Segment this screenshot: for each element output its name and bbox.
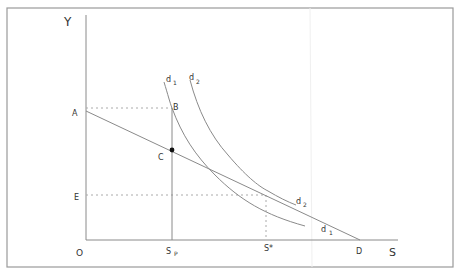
s-star-label: S* [264,244,273,253]
point-a-label: A [72,109,78,118]
curve-d2 [190,80,296,205]
point-e-label: E [74,193,79,202]
page-fold-line [310,8,312,267]
diagram-frame [7,8,453,267]
curve-d1-end-subscript: 1 [329,229,333,236]
curve-d2-label: d [189,73,194,82]
point-c-label: C [158,153,164,162]
point-b-label: B [173,103,179,112]
origin-label: O [76,248,83,258]
x-axis-label: S [389,246,396,259]
curve-d2-end-label: d [296,197,301,206]
diagram-canvas: Y S O A B C D E S P S* d 1 d 2 d 2 d 1 [0,0,458,274]
y-axis-label: Y [63,15,72,29]
curve-d1-end-label: d [321,225,326,234]
sp-subscript: P [174,250,178,257]
curve-d2-subscript: 2 [196,78,200,85]
curve-d2-end-subscript: 2 [303,201,307,208]
point-d-label: D [356,247,362,256]
curve-d1-label: d [166,75,171,84]
budget-line-ad [86,111,360,240]
curve-d1-subscript: 1 [173,79,177,86]
sp-label: S [166,247,171,256]
point-c-dot [170,148,175,153]
